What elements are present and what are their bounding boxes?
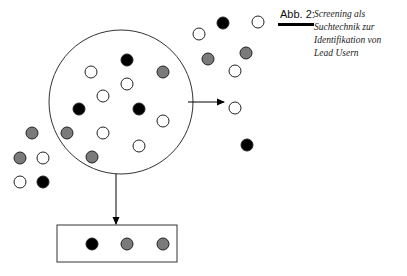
- white-dot: [157, 115, 169, 127]
- white-dot: [97, 90, 109, 102]
- arrows: [116, 102, 224, 224]
- white-dot: [121, 78, 133, 90]
- gray-dot: [26, 127, 38, 139]
- black-dot: [121, 54, 133, 66]
- screening-circle: [49, 30, 193, 174]
- white-dot: [252, 16, 264, 28]
- caption-line: Identifikation von: [314, 34, 406, 47]
- black-dot: [86, 238, 98, 250]
- caption-line: Lead Usern: [314, 47, 406, 60]
- black-dot: [241, 139, 253, 151]
- gray-dot: [61, 127, 73, 139]
- gray-dot: [202, 53, 214, 65]
- white-dot: [229, 102, 241, 114]
- black-dot: [133, 103, 145, 115]
- figure-caption: Screening als Suchtechnik zur Identifika…: [314, 8, 406, 60]
- white-dot: [193, 28, 205, 40]
- gray-dot: [121, 238, 133, 250]
- dots: [14, 16, 264, 250]
- white-dot: [85, 66, 97, 78]
- figure-label: Abb. 2:: [280, 8, 315, 20]
- gray-dot: [240, 47, 252, 59]
- caption-line: Suchtechnik zur: [314, 21, 406, 34]
- white-dot: [14, 176, 26, 188]
- caption-line: Screening als: [314, 8, 406, 21]
- gray-dot: [157, 238, 169, 250]
- gray-dot: [14, 152, 26, 164]
- white-dot: [97, 127, 109, 139]
- gray-dot: [86, 151, 98, 163]
- white-dot: [133, 140, 145, 152]
- black-dot: [217, 17, 229, 29]
- gray-dot: [157, 66, 169, 78]
- white-dot: [229, 65, 241, 77]
- white-dot: [37, 152, 49, 164]
- black-dot: [37, 176, 49, 188]
- black-dot: [73, 103, 85, 115]
- figure-label-underline: [278, 23, 314, 26]
